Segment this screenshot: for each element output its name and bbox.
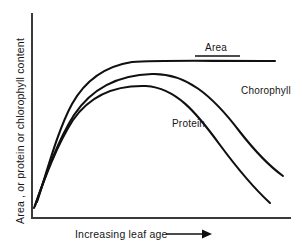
curves-group bbox=[34, 61, 283, 208]
curve-protein bbox=[34, 86, 270, 208]
x-axis-label: Increasing leaf age bbox=[75, 228, 168, 240]
axes-group bbox=[32, 14, 290, 218]
right-arrow-icon bbox=[202, 230, 212, 239]
y-axis-label: Area , or protein or chlorophyll content bbox=[14, 38, 26, 224]
series-label-chlorophyll: Chorophyll bbox=[241, 85, 291, 96]
figure-container: Area Chorophyll Protein Area , or protei… bbox=[0, 0, 303, 249]
series-label-protein: Protein bbox=[172, 118, 205, 129]
series-label-area-group: Area bbox=[195, 42, 240, 56]
series-label-area: Area bbox=[205, 42, 227, 53]
x-axis-label-group: Increasing leaf age bbox=[75, 228, 212, 240]
leaf-age-line-graph: Area Chorophyll Protein Area , or protei… bbox=[0, 0, 303, 249]
